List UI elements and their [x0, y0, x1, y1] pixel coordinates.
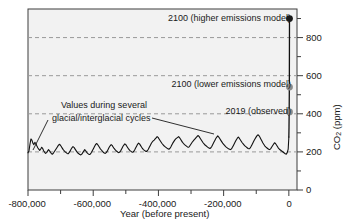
y-axis-title: CO2 (ppm) — [331, 104, 342, 150]
chart-canvas — [0, 0, 347, 224]
projection-series — [289, 19, 290, 138]
y-tick-label-200: 200 — [306, 147, 322, 157]
y-tick-label-400: 400 — [306, 109, 322, 119]
x-tick-label--600000: -600,000 — [74, 199, 112, 209]
label-2019-observed: 2019 (observed) — [225, 107, 291, 116]
label-2100-lower-emissions: 2100 (lower emissions model) — [171, 80, 291, 89]
x-axis-title: Year (before present) — [120, 209, 209, 219]
y-axis-ticks — [297, 19, 303, 190]
label-2100-higher-emissions: 2100 (higher emissions model) — [168, 14, 291, 23]
x-tick-label-0: 0 — [286, 199, 291, 209]
x-tick-label--200000: -200,000 — [204, 199, 242, 209]
x-tick-label--800000: -800,000 — [8, 199, 46, 209]
x-axis-ticks — [28, 190, 289, 196]
annotation-line-2: glacial/interglacial cycles — [52, 114, 151, 123]
y-tick-label-600: 600 — [306, 71, 322, 81]
co2-chart-figure: 2100 (higher emissions model) 2100 (lowe… — [0, 0, 347, 224]
y-tick-label-800: 800 — [306, 33, 322, 43]
y-tick-label-0: 0 — [306, 185, 311, 195]
annotation-line-1: Values during several — [61, 101, 147, 110]
